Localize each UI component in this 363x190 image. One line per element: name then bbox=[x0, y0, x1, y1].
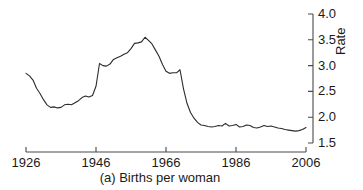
y-tick-label: 2.0 bbox=[318, 109, 336, 124]
x-tick-label: 1926 bbox=[1, 155, 51, 170]
y-tick-label: 4.0 bbox=[318, 6, 336, 21]
x-tick-label: 1966 bbox=[141, 155, 191, 170]
series-line-births-per-woman bbox=[26, 37, 306, 131]
x-tick-label: 1946 bbox=[71, 155, 121, 170]
figure-caption: (a) Births per woman bbox=[0, 170, 320, 185]
chart-figure: 19261946196619862006 4.03.53.02.52.01.5 … bbox=[0, 0, 363, 190]
y-axis bbox=[308, 14, 313, 143]
x-tick-label: 2006 bbox=[281, 155, 331, 170]
y-axis-line bbox=[308, 14, 313, 143]
x-axis bbox=[26, 147, 306, 152]
y-tick-label: 3.0 bbox=[318, 58, 336, 73]
y-tick-label: 2.5 bbox=[318, 83, 336, 98]
y-axis-title: Rate bbox=[333, 28, 348, 55]
y-tick-label: 1.5 bbox=[318, 135, 336, 150]
x-axis-line bbox=[26, 147, 306, 152]
x-tick-label: 1986 bbox=[211, 155, 261, 170]
